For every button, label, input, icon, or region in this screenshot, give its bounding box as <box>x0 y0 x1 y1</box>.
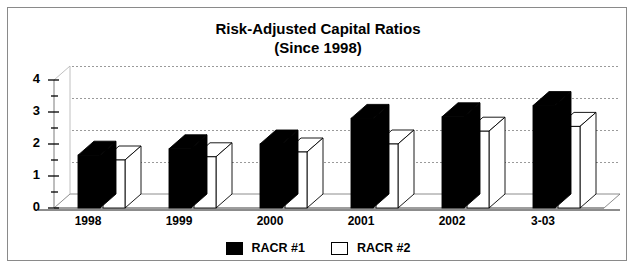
legend-label-racr-2: RACR #2 <box>357 241 411 255</box>
chart-frame: Risk-Adjusted Capital Ratios (Since 1998… <box>7 7 627 261</box>
legend-item-racr-1[interactable]: RACR #1 <box>226 241 306 255</box>
x-tick-label-1999: 1999 <box>144 214 214 228</box>
x-tick-label-2001: 2001 <box>326 214 396 228</box>
x-tick-label-3-03: 3-03 <box>508 214 578 228</box>
bar-racr1-4 <box>442 103 480 208</box>
bar-racr1-0 <box>78 141 116 208</box>
bar-racr1-1 <box>169 135 207 208</box>
plot-area: 4 3 2 1 0 1998 1999 2000 2001 2002 3-03 <box>8 8 628 262</box>
white-swatch-icon <box>331 242 348 255</box>
y-tick-label-4: 4 <box>18 71 40 86</box>
y-tick-label-2: 2 <box>18 135 40 150</box>
chart-legend: RACR #1 RACR #2 <box>8 241 628 255</box>
legend-item-racr-2[interactable]: RACR #2 <box>331 241 411 255</box>
bar-racr1-3 <box>351 104 389 208</box>
legend-label-racr-1: RACR #1 <box>252 241 306 255</box>
bar-racr1-2 <box>260 130 298 208</box>
x-tick-label-2000: 2000 <box>235 214 305 228</box>
x-tick-label-1998: 1998 <box>53 214 123 228</box>
x-tick-label-2002: 2002 <box>417 214 487 228</box>
y-tick-label-1: 1 <box>18 167 40 182</box>
black-swatch-icon <box>226 242 243 255</box>
bar-series-group <box>78 92 596 208</box>
y-tick-label-0: 0 <box>18 199 40 214</box>
y-axis-ticks <box>48 80 59 208</box>
bar-racr1-5 <box>533 92 571 208</box>
y-tick-label-3: 3 <box>18 103 40 118</box>
